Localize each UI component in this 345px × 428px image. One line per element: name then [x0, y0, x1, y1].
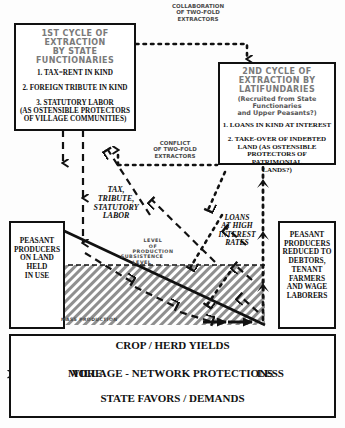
box1-item-3: 3. STATUTORY LABOR	[19, 99, 131, 107]
diagram-canvas: COLLABORATION OF TWO-FOLD EXTRACTORS 1ST…	[0, 0, 345, 428]
box2-heading: 2ND CYCLE OF EXTRACTION BY LATIFUNDARIES	[222, 68, 332, 95]
flow-label-loans-high-interest: LOANS AT HIGH INTEREST RATES	[212, 214, 262, 247]
conflict-annotation: CONFLICT OF TWO-FOLD EXTRACTORS	[139, 140, 211, 159]
box1-heading-line-4: FUNCTIONARIES	[19, 57, 131, 66]
box2-item-2d: LANDS?)	[222, 167, 332, 175]
box2-item-2c: PROTECTORS OF PATRIMONIAL	[222, 151, 332, 167]
mass-production-label: MASS PRODUCTION	[61, 317, 133, 322]
box-peasant-producers-right[interactable]: PEASANT PRODUCERS REDUCED TO DEBTORS, TE…	[278, 221, 336, 329]
bottom-village-network-protections: VILLAGE - NETWORK PROTECTIONS	[0, 367, 345, 379]
box1-heading: 1ST CYCLE OF EXTRACTION BY STATE FUNCTIO…	[19, 30, 131, 66]
bottom-state-favors-demands: STATE FAVORS / DEMANDS	[0, 392, 345, 404]
bottom-crop-herd-yields: CROP / HERD YIELDS	[0, 339, 345, 351]
level-of-production-label: LEVEL OF PRODUCTION	[122, 238, 184, 255]
tax-label-line-4: LABOR	[85, 212, 147, 221]
box-second-cycle-of-extraction[interactable]: 2ND CYCLE OF EXTRACTION BY LATIFUNDARIES…	[218, 62, 336, 165]
box2-sub-line-3: and Upper Peasants?)	[222, 110, 332, 117]
subsistence-level-label: SUBSISTENCE LEVEL	[110, 254, 174, 265]
collaboration-dotted-path	[136, 44, 247, 59]
peasant-left-line-5: IN USE	[11, 272, 63, 281]
bottom-less-label: LESS	[257, 367, 284, 379]
loans-label-line-4: RATES	[212, 239, 262, 247]
box2-subheading: (Recruited from State Functionaries and …	[222, 96, 332, 117]
box-peasant-producers-left[interactable]: PEASANT PRODUCERS ON LAND HELD IN USE	[9, 221, 65, 329]
collaboration-annotation: COLLABORATION OF TWO-FOLD EXTRACTORS	[152, 3, 244, 22]
peasant-right-line-8: LABORERS	[280, 292, 334, 301]
peasant-right-text: PEASANT PRODUCERS REDUCED TO DEBTORS, TE…	[280, 231, 334, 301]
flow-label-tax-tribute-labor: TAX, TRIBUTE, STATUTORY LABOR	[85, 186, 147, 221]
box1-item-3b: (AS OSTENSIBLE PROTECTORS	[19, 107, 131, 115]
below-subsistence-hatch	[60, 265, 265, 325]
box1-item-3c: OF VILLAGE COMMUNITIES)	[19, 115, 131, 123]
mass-production-text: MASS PRODUCTION	[61, 317, 133, 322]
peasant-left-text: PEASANT PRODUCERS ON LAND HELD IN USE	[11, 237, 63, 281]
box1-item-1: 1. TAX=RENT IN KIND	[19, 69, 131, 77]
box1-item-2: 2. FOREIGN TRIBUTE IN KIND	[19, 84, 131, 92]
collab-line-3: EXTRACTORS	[152, 16, 244, 22]
box-first-cycle-of-extraction[interactable]: 1ST CYCLE OF EXTRACTION BY STATE FUNCTIO…	[14, 23, 136, 131]
subs-line-2: LEVEL	[110, 260, 174, 266]
box2-heading-line-3: LATIFUNDARIES	[222, 86, 332, 95]
loan-dotted-arrow-a	[208, 172, 225, 210]
box2-item-1: 1. LOANS IN KIND AT INTEREST	[222, 122, 332, 130]
conflict-line-3: EXTRACTORS	[139, 153, 211, 159]
